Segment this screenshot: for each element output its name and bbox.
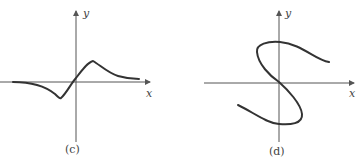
figure: y x (c) y x (d) <box>0 0 356 160</box>
x-axis-label: x <box>146 87 153 100</box>
panel-d: y x (d) <box>204 7 356 158</box>
panel-c: y x (c) <box>0 7 153 156</box>
y-axis-label: y <box>284 7 292 20</box>
panel-caption: (d) <box>269 145 285 158</box>
panel-caption: (c) <box>65 143 80 156</box>
y-axis-label: y <box>82 7 90 20</box>
x-axis-label: x <box>349 87 356 100</box>
